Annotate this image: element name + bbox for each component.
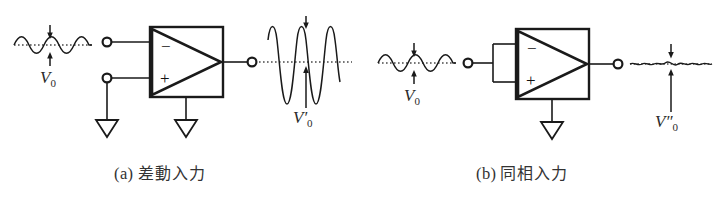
panel-a-output-waveform xyxy=(259,16,352,108)
panel-a-output-terminal[interactable] xyxy=(248,58,257,67)
panel-b-output-waveform xyxy=(630,44,712,112)
panel-a-input-waveform xyxy=(14,25,92,66)
panel-b-ground-symbol xyxy=(541,122,563,139)
panel-a-group xyxy=(14,16,352,137)
figure-root: V0 V′0 V0 V″0 − + − + (a)差動入力 (b)同相入力 xyxy=(0,0,723,204)
panel-a-ground-symbol-center xyxy=(175,120,197,137)
panel-b-input-terminal[interactable] xyxy=(464,59,473,68)
panel-b-group xyxy=(378,29,712,139)
panel-a-output-sine xyxy=(268,27,340,105)
panel-a-opamp-box xyxy=(150,27,223,97)
panel-b-output-terminal[interactable] xyxy=(614,60,623,69)
panel-a-ground-symbol-left xyxy=(96,120,118,137)
panel-a-inverting-terminal[interactable] xyxy=(103,38,112,47)
panel-b-input-waveform xyxy=(378,43,456,84)
panel-a-input-sine xyxy=(14,37,92,54)
panel-b-input-sine xyxy=(378,55,456,72)
panel-a-noninverting-terminal[interactable] xyxy=(103,74,112,83)
circuit-diagram-svg xyxy=(0,0,723,204)
panel-b-opamp-box xyxy=(516,29,589,99)
panel-b-output-amplitude-arrow xyxy=(668,44,674,112)
panel-b-input-tie-bracket xyxy=(493,44,516,82)
